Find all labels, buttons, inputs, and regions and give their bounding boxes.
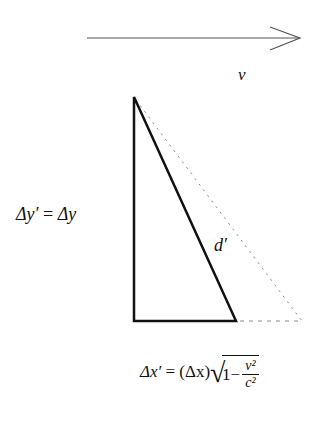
radical-icon: √ — [210, 353, 225, 393]
delta-x-paren: (Δx) — [179, 362, 210, 381]
horizontal-equation: Δx′ = (Δx)√1−v²c² — [140, 355, 259, 391]
contracted-triangle — [134, 97, 236, 321]
fraction: v²c² — [242, 358, 258, 391]
velocity-label: v — [238, 65, 246, 85]
delta-y: Δy — [58, 204, 77, 224]
hypotenuse-label: d′ — [214, 235, 227, 256]
equals-sign: = — [161, 362, 179, 381]
vertical-equation: Δy′ = Δy — [16, 204, 76, 225]
dotted-hypotenuse — [136, 100, 302, 321]
fraction-denominator: c² — [242, 375, 258, 391]
fraction-numerator: v² — [242, 358, 258, 375]
sqrt-expression: √1−v²c² — [210, 355, 259, 391]
equals-sign: = — [39, 204, 58, 224]
delta-y-prime: Δy′ — [16, 204, 39, 224]
delta-x-prime: Δx′ — [140, 362, 161, 381]
